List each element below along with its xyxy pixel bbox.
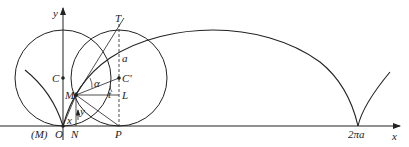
label-t: t [108,88,112,100]
label-2pi-a: 2πa [348,128,365,140]
MT-line [76,18,124,95]
label-T: T [115,12,122,24]
label-C-prime: C' [122,72,132,84]
label-L: L [121,89,128,101]
diagram-canvas: y x T a C C' α M' t L y x (M) O N P 2πa [0,0,409,147]
label-O: O [55,128,63,140]
label-y-segment: y [79,105,85,117]
label-N: N [70,128,79,140]
label-alpha: α [94,77,100,89]
label-x-axis: x [391,130,397,142]
label-x-segment: x [66,114,72,126]
point-C [61,76,65,80]
label-y-axis: y [52,7,58,19]
label-M-origin: (M) [31,128,48,141]
cycloid-diagram: y x T a C C' α M' t L y x (M) O N P 2πa [0,0,409,147]
label-C: C [52,72,60,84]
label-P: P [114,128,122,140]
alpha-arc [90,78,92,88]
label-M-prime: M' [64,89,77,101]
point-C-prime [117,76,121,80]
label-a-top: a [122,52,128,64]
cycloid-right-arch [358,72,390,126]
